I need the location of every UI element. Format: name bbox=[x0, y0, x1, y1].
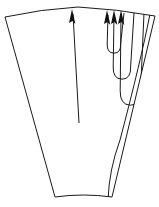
fan-wedge-diagram bbox=[0, 0, 159, 207]
figure-container bbox=[0, 0, 159, 207]
